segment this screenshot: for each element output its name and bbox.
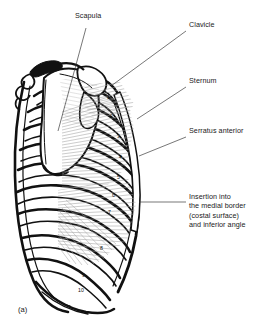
rib-number-6: 6	[112, 193, 115, 198]
anatomy-illustration	[0, 0, 259, 331]
leader-clavicle	[111, 31, 186, 86]
label-clavicle-text: Clavicle	[189, 20, 215, 29]
label-clavicle: Clavicle	[189, 20, 215, 29]
rib-number-9: 9	[82, 273, 85, 278]
label-scapula: Scapula	[75, 11, 101, 20]
label-scapula-text: Scapula	[75, 11, 101, 20]
rib-number-5: 5	[117, 175, 120, 180]
rib-number-3: 3	[117, 134, 120, 139]
rib-number-7: 7	[108, 210, 111, 215]
rib-number-2: 2	[110, 114, 113, 119]
figure-container: Scapula Clavicle Sternum Serratus anteri…	[0, 0, 259, 331]
label-insertion-line-4: and inferior angle	[189, 220, 259, 229]
rib-number-8: 8	[100, 246, 103, 251]
label-serratus-anterior-text: Serratus anterior	[189, 126, 243, 135]
leader-sternum	[137, 87, 186, 119]
label-insertion-line-1: Insertion into	[189, 192, 259, 201]
label-insertion-line-2: the medial border	[189, 201, 259, 210]
label-sternum: Sternum	[189, 76, 217, 85]
rib-number-4: 4	[119, 155, 122, 160]
label-serratus-anterior: Serratus anterior	[189, 126, 243, 135]
leader-serratus-anterior	[139, 137, 186, 156]
label-insertion-line-3: (costal surface)	[189, 211, 259, 220]
label-sternum-text: Sternum	[189, 76, 217, 85]
rib-number-10: 10	[78, 288, 84, 293]
rib-number-1: 1	[107, 95, 110, 100]
figure-caption: (a)	[18, 305, 27, 314]
label-insertion: Insertion into the medial border (costal…	[189, 192, 259, 230]
